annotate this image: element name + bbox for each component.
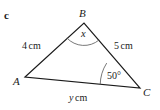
vertex-label-b: B xyxy=(79,8,86,19)
side-ab-number: 4 xyxy=(22,40,27,51)
side-length-bc: 5cm xyxy=(114,41,133,51)
side-ab-unit: cm xyxy=(29,40,41,51)
angle-arc-c xyxy=(100,63,106,84)
vertex-label-c: C xyxy=(143,87,150,98)
side-length-ac: ycm xyxy=(69,93,87,103)
side-ac-variable: y xyxy=(69,92,73,103)
side-ac-unit: cm xyxy=(75,92,87,103)
side-length-ab: 4cm xyxy=(22,41,41,51)
side-bc-number: 5 xyxy=(114,40,119,51)
side-bc-unit: cm xyxy=(121,40,133,51)
angle-label-c: 50° xyxy=(107,71,121,81)
angle-label-b: x xyxy=(81,29,86,40)
vertex-label-a: A xyxy=(13,76,20,87)
figure-canvas: c B A C 4cm 5cm ycm x 50° xyxy=(0,0,160,110)
part-label: c xyxy=(4,10,9,21)
